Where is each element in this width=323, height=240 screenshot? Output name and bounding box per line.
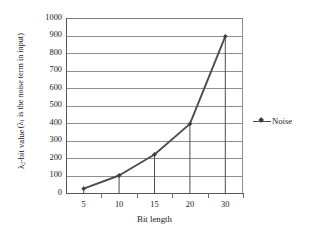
x-axis-tick-label: 5: [67, 199, 101, 210]
x-axis-tick-label: 15: [138, 199, 172, 210]
x-axis-tick-labels: 510152030: [66, 199, 243, 213]
chart-figure: λ2-bit value (λ1 is the noise term in in…: [0, 0, 323, 240]
x-axis-tick-label: 20: [173, 199, 207, 210]
x-axis-tick-mark: [172, 193, 173, 198]
x-axis-tick-mark: [137, 193, 138, 198]
x-axis-tick-mark: [101, 193, 102, 198]
data-point-marker: [81, 186, 86, 191]
x-axis-tick-label: 10: [102, 199, 136, 210]
x-axis-tick-mark: [208, 193, 209, 198]
legend-marker-icon: [253, 117, 271, 126]
legend-label-noise: Noise: [272, 116, 292, 126]
chart-legend: Noise: [253, 116, 292, 126]
x-axis-title: Bit length: [66, 214, 243, 224]
x-axis-tick-mark: [243, 193, 244, 198]
x-axis-tick-label: 30: [208, 199, 242, 210]
